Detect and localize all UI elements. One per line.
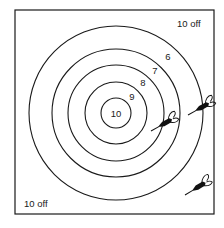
score-label-9: 9 [129,91,134,102]
dart-icon [182,174,213,199]
dart-icon [185,95,217,119]
score-label-10: 10 [111,108,122,119]
corner-label-top-right: 10 off [177,18,201,29]
target-diagram: 10 9 8 7 6 10 off 10 off [0,0,224,228]
score-label-7: 7 [152,65,157,76]
score-label-8: 8 [140,77,145,88]
ring-score-labels: 10 9 8 7 6 [111,51,171,119]
corner-label-bottom-left: 10 off [24,198,48,209]
score-label-6: 6 [165,51,170,62]
